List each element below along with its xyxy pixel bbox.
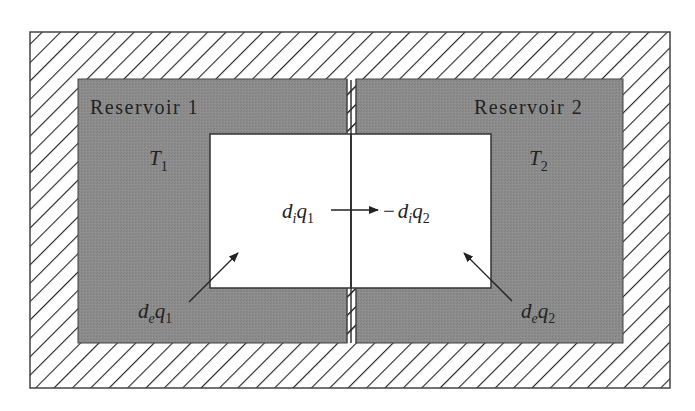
diagram-canvas: Reservoir 1 Reservoir 2 T1 T2 diq1 −diq2… (0, 0, 695, 411)
subsystem-1 (210, 134, 351, 288)
internal-heat-2: −diq2 (383, 199, 430, 226)
reservoir-1-label: Reservoir 1 (90, 96, 199, 118)
gap-bottom (347, 288, 356, 343)
gap-top (347, 79, 356, 134)
reservoir-2-label: Reservoir 2 (474, 96, 583, 118)
